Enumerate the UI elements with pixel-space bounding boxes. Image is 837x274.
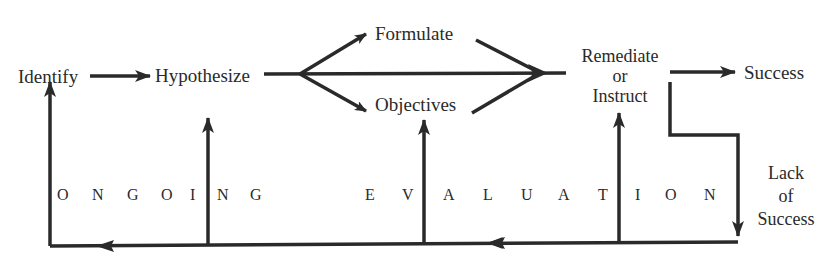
lack-line3: Success [748,208,824,231]
node-objectives: Objectives [375,95,456,114]
feedback-bottom-line [50,242,738,246]
node-formulate: Formulate [375,24,453,43]
trunk-line [264,73,566,74]
node-hypothesize: Hypothesize [155,66,250,85]
node-success: Success [744,63,804,82]
lack-line1: Lack [748,162,824,185]
lack-line2: of [748,185,824,208]
remediate-line3: Instruct [568,86,672,106]
remediate-line1: Remediate [568,46,672,66]
path-to-lack-of-success [670,82,738,236]
node-identify: Identify [18,67,78,86]
remediate-line2: or [568,66,672,86]
arrow-to-objectives [300,74,366,111]
arrow-to-formulate [300,34,366,74]
node-remediate-or-instruct: Remediate or Instruct [568,46,672,106]
node-lack-of-success: Lack of Success [748,162,824,231]
